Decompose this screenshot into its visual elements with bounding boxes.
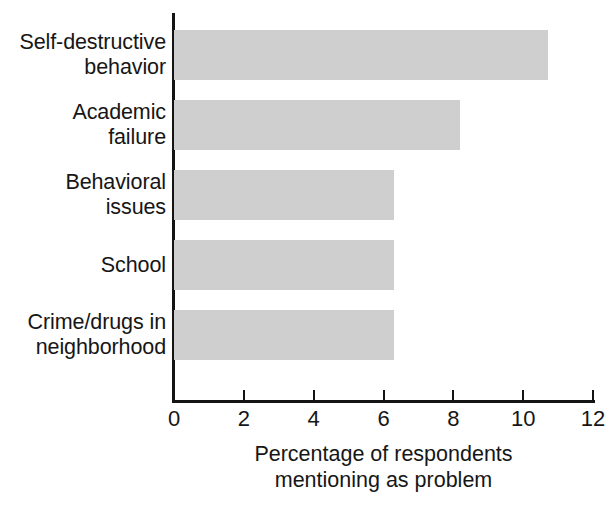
x-axis-title-line1: Percentage of respondents bbox=[254, 442, 512, 466]
category-label-behavioral-issues: Behavioral issues bbox=[0, 170, 166, 220]
x-axis-title-line2: mentioning as problem bbox=[275, 468, 493, 492]
x-tick-label-8: 8 bbox=[433, 406, 473, 432]
x-tick-label-12: 12 bbox=[573, 406, 613, 432]
category-label-self-destructive-behavior: Self-destructive behavior bbox=[0, 30, 166, 80]
x-tick-mark-4 bbox=[313, 390, 315, 401]
category-label-school: School bbox=[0, 253, 166, 278]
x-tick-mark-6 bbox=[383, 390, 385, 401]
x-tick-label-10: 10 bbox=[503, 406, 543, 432]
bar-crime-drugs-in-neighborhood bbox=[174, 310, 394, 360]
bar-behavioral-issues bbox=[174, 170, 394, 220]
category-label-crime-drugs-in-neighborhood: Crime/drugs in neighborhood bbox=[0, 310, 166, 360]
x-tick-label-4: 4 bbox=[294, 406, 334, 432]
x-tick-label-0: 0 bbox=[154, 406, 194, 432]
x-tick-mark-8 bbox=[452, 390, 454, 401]
bar-self-destructive-behavior bbox=[174, 30, 548, 80]
bar-school bbox=[174, 240, 394, 290]
category-axis-labels: Self-destructive behavior Academic failu… bbox=[0, 0, 166, 402]
x-tick-label-6: 6 bbox=[364, 406, 404, 432]
x-tick-mark-2 bbox=[243, 390, 245, 401]
bar-chart: Self-destructive behavior Academic failu… bbox=[0, 0, 614, 506]
x-tick-mark-0 bbox=[173, 390, 175, 401]
plot-area bbox=[174, 13, 593, 402]
x-tick-mark-10 bbox=[522, 390, 524, 401]
x-tick-mark-12 bbox=[592, 390, 594, 401]
x-tick-label-2: 2 bbox=[224, 406, 264, 432]
category-label-academic-failure: Academic failure bbox=[0, 100, 166, 150]
x-axis-title: Percentage of respondentsmentioning as p… bbox=[174, 441, 593, 493]
bar-academic-failure bbox=[174, 100, 460, 150]
